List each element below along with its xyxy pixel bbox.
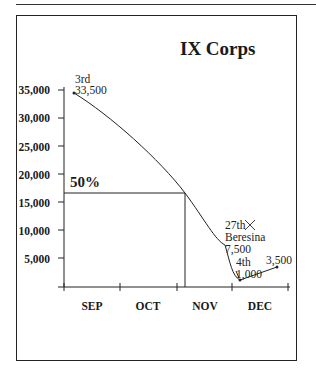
- battle-day-label: 27th: [225, 219, 245, 231]
- battle-name-label: Beresina: [225, 231, 265, 243]
- x-label-nov: NOV: [180, 300, 230, 312]
- end-value-label: 3,500: [266, 254, 292, 266]
- half-strength-label: 50%: [70, 174, 100, 191]
- x-label-oct: OCT: [123, 300, 173, 312]
- chart-plot: [0, 0, 316, 378]
- start-value-label: 33,500: [75, 84, 107, 96]
- x-label-dec: DEC: [235, 300, 285, 312]
- x-label-sep: SEP: [67, 300, 117, 312]
- y-ticks: [58, 90, 64, 258]
- low-value-label: 1,000: [236, 268, 262, 280]
- crossed-swords-icon: [245, 220, 255, 230]
- low-day-label: 4th: [236, 256, 251, 268]
- battle-value-label: 7,500: [225, 243, 251, 255]
